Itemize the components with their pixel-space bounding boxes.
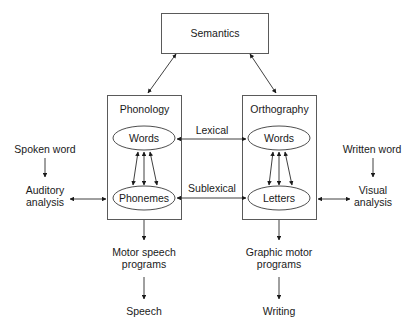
graphic-motor-line2: programs bbox=[257, 258, 301, 270]
visual-analysis-line1: Visual bbox=[359, 184, 387, 196]
semantics-orthography-arrow bbox=[250, 54, 276, 93]
spoken-word-label: Spoken word bbox=[14, 143, 75, 155]
phonology-node: Phonology Words Phonemes bbox=[108, 96, 182, 220]
semantics-node: Semantics bbox=[162, 14, 269, 54]
motor-speech-line2: programs bbox=[122, 258, 166, 270]
semantics-label: Semantics bbox=[190, 27, 239, 39]
phonology-title: Phonology bbox=[120, 103, 170, 115]
language-processing-diagram: Semantics Phonology Words Phonemes Ortho… bbox=[0, 0, 417, 332]
auditory-analysis-line2: analysis bbox=[26, 196, 64, 208]
lexical-route-label: Lexical bbox=[196, 124, 229, 136]
orthography-node: Orthography Words Letters bbox=[243, 96, 317, 220]
semantics-phonology-arrow bbox=[148, 54, 176, 93]
graphic-motor-line1: Graphic motor bbox=[246, 246, 313, 258]
writing-label: Writing bbox=[263, 305, 296, 317]
written-word-label: Written word bbox=[343, 143, 402, 155]
speech-label: Speech bbox=[126, 305, 162, 317]
phonemes-label: Phonemes bbox=[119, 192, 169, 204]
orthography-title: Orthography bbox=[250, 103, 309, 115]
visual-analysis-line2: analysis bbox=[354, 196, 392, 208]
sublexical-route-label: Sublexical bbox=[188, 182, 236, 194]
orthography-words-label: Words bbox=[264, 132, 294, 144]
phonology-words-label: Words bbox=[129, 132, 159, 144]
letters-label: Letters bbox=[263, 192, 295, 204]
motor-speech-line1: Motor speech bbox=[112, 246, 176, 258]
auditory-analysis-line1: Auditory bbox=[26, 184, 65, 196]
